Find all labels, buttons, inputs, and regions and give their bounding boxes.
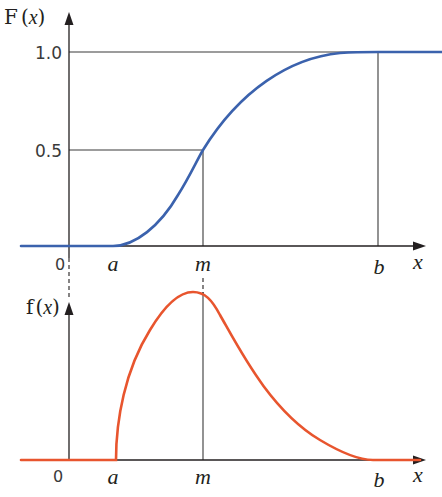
x-tick-0-top: 0 — [55, 255, 65, 274]
x-axis-label-bottom: x — [412, 462, 423, 487]
x-tick-a-bottom: a — [108, 464, 119, 489]
x-tick-m-bottom: m — [195, 464, 211, 489]
x-axis-label-top: x — [412, 249, 423, 274]
y-axis-arrow-icon — [65, 12, 74, 25]
x-tick-m-top: m — [195, 251, 211, 276]
cdf-panel: F(x) 1.0 0.5 0 a m b x — [4, 5, 442, 279]
cdf-curve — [21, 52, 442, 246]
x-tick-0-bottom: 0 — [53, 467, 63, 486]
y-axis-arrow-icon — [65, 302, 74, 315]
pdf-curve — [21, 292, 420, 460]
cdf-pdf-figure: F(x) 1.0 0.5 0 a m b x f(x) 0 a m b x — [0, 0, 442, 497]
y-tick-0-5: 0.5 — [35, 141, 62, 161]
cdf-y-label: F(x) — [4, 5, 45, 29]
y-tick-1-0: 1.0 — [35, 43, 62, 63]
x-tick-b-top: b — [374, 254, 385, 279]
pdf-y-label: f(x) — [26, 295, 60, 319]
pdf-panel: f(x) 0 a m b x — [21, 292, 426, 492]
x-tick-b-bottom: b — [374, 467, 385, 492]
x-tick-a-top: a — [108, 251, 119, 276]
